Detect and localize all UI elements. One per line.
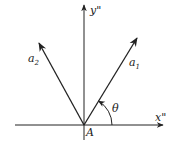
vector-a1-label: a1 (129, 56, 140, 71)
vector-diagram: y" x" A θ a1 a2 (0, 0, 174, 144)
y-axis-label: y" (89, 4, 101, 17)
angle-label: θ (112, 102, 119, 115)
origin-label: A (85, 126, 94, 139)
vector-a2 (39, 43, 84, 125)
x-axis-label: x" (155, 111, 166, 124)
angle-arc (99, 101, 113, 125)
vector-a2-label: a2 (28, 52, 40, 67)
vector-a1 (84, 38, 137, 125)
